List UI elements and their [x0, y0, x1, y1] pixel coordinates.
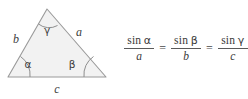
- sin-function-label: sin: [127, 34, 141, 46]
- equals-sign-1: =: [154, 41, 171, 56]
- equals-sign-2: =: [201, 41, 218, 56]
- equation-row: sin α a = sin β b = sin γ c: [124, 35, 248, 62]
- numerator-sin-alpha: sin α: [125, 35, 153, 48]
- angle-symbol-alpha: α: [144, 34, 151, 47]
- side-label-c: c: [54, 82, 60, 96]
- triangle-shape: [8, 9, 106, 77]
- angle-label-alpha: α: [25, 58, 32, 70]
- sin-function-label: sin: [221, 34, 235, 46]
- denominator-a: a: [136, 49, 142, 63]
- triangle-diagram: b a c γ α β: [0, 0, 124, 99]
- angle-symbol-beta: β: [191, 34, 198, 47]
- fraction-sin-beta-over-b: sin β b: [171, 35, 201, 62]
- fraction-sin-gamma-over-c: sin γ c: [218, 35, 248, 62]
- side-label-a: a: [76, 25, 82, 39]
- denominator-b: b: [183, 49, 189, 63]
- denominator-c: c: [230, 49, 235, 63]
- side-label-b: b: [13, 32, 19, 46]
- angle-label-beta: β: [69, 58, 76, 70]
- angle-symbol-gamma: γ: [238, 34, 245, 47]
- numerator-sin-gamma: sin γ: [219, 35, 246, 48]
- law-of-sines-equation: sin α a = sin β b = sin γ c: [124, 0, 248, 99]
- angle-label-gamma: γ: [44, 24, 50, 36]
- fraction-sin-alpha-over-a: sin α a: [124, 35, 154, 62]
- numerator-sin-beta: sin β: [172, 35, 200, 48]
- law-of-sines-figure: b a c γ α β sin α a = sin β b: [0, 0, 248, 99]
- sin-function-label: sin: [174, 34, 188, 46]
